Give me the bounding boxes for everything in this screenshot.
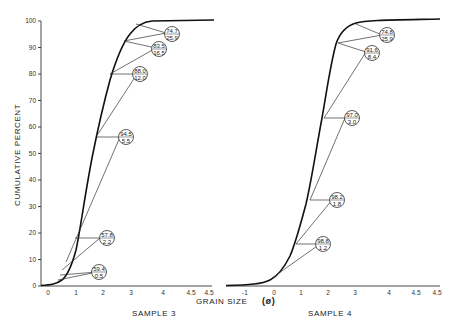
- svg-text:3.0: 3.0: [348, 119, 357, 125]
- y-tick-labels: 0 10 20 30 40 50 60 70 80 90 100: [25, 17, 36, 289]
- x-tick: 4: [387, 289, 391, 296]
- annotation-circle: 83.5 16.5: [152, 42, 167, 57]
- x-tick: 0: [46, 289, 50, 296]
- x-tick: 2: [326, 289, 330, 296]
- sample4-title: SAMPLE 4: [308, 309, 352, 318]
- x-axis-unit: (ø): [262, 296, 275, 306]
- x-tick: 4: [161, 289, 165, 296]
- svg-text:1.8: 1.8: [333, 201, 342, 207]
- svg-text:57.8: 57.8: [101, 232, 113, 238]
- sample3-annotation-circles: 59.4 0.5 57.8 2.2 94.5 5.5 88.0 12.0 83.…: [92, 27, 180, 280]
- y-axis-title: CUMULATIVE PERCENT: [13, 104, 22, 206]
- sample3-axes: [38, 21, 212, 286]
- y-tick: 20: [29, 229, 37, 236]
- svg-text:25.9: 25.9: [381, 36, 393, 42]
- x-tick: -1: [242, 289, 248, 296]
- y-tick: 50: [29, 150, 37, 157]
- svg-text:74.7: 74.7: [166, 28, 178, 34]
- svg-text:74.8: 74.8: [381, 29, 393, 35]
- y-tick: 0: [32, 282, 36, 289]
- annotation-circle: 88.0 12.0: [133, 67, 148, 82]
- svg-text:12.0: 12.0: [134, 75, 146, 81]
- x-tick: 4.5: [411, 289, 420, 296]
- sample3-cumulative-curve: [41, 20, 214, 286]
- annotation-circle: 59.4 0.5: [92, 265, 107, 280]
- svg-text:98.2: 98.2: [331, 194, 343, 200]
- x-tick: 4.5: [186, 289, 195, 296]
- x-tick: 2: [101, 289, 105, 296]
- svg-text:2.2: 2.2: [103, 239, 112, 245]
- svg-text:83.5: 83.5: [153, 43, 165, 49]
- annotation-circle: 98.2 1.8: [330, 193, 345, 208]
- sample4-x-ticks: -1 0 1 2 3 4 4.5 4.5: [242, 289, 442, 296]
- annotation-circle: 94.5 5.5: [119, 130, 134, 145]
- x-tick: 3: [353, 289, 357, 296]
- annotation-circle: 98.8 1.2: [316, 237, 331, 252]
- svg-text:97.0: 97.0: [346, 112, 358, 118]
- svg-text:91.6: 91.6: [366, 47, 378, 53]
- svg-text:8.4: 8.4: [368, 54, 377, 60]
- sample3-x-ticks: 0 1 2 3 4 4.5 4.5: [46, 289, 214, 296]
- x-tick: 1: [74, 289, 78, 296]
- svg-text:1.2: 1.2: [319, 245, 328, 251]
- y-tick: 80: [29, 70, 37, 77]
- svg-text:5.5: 5.5: [122, 138, 131, 144]
- svg-text:94.5: 94.5: [120, 131, 132, 137]
- x-tick: 4.5: [432, 289, 441, 296]
- annotation-circle: 57.8 2.2: [100, 231, 115, 246]
- y-tick: 100: [25, 17, 36, 24]
- x-tick: 4.5: [204, 289, 213, 296]
- grain-size-charts: 0 10 20 30 40 50 60 70 80 90 100 CUMULAT…: [0, 0, 459, 333]
- y-tick: 60: [29, 123, 37, 130]
- annotation-circle: 91.6 8.4: [365, 46, 380, 61]
- annotation-circle: 74.8 25.9: [380, 28, 395, 43]
- y-tick: 70: [29, 97, 37, 104]
- sample3-title: SAMPLE 3: [132, 309, 176, 318]
- svg-text:0.5: 0.5: [95, 273, 104, 279]
- annotation-circle: 97.0 3.0: [345, 111, 360, 126]
- svg-text:88.0: 88.0: [134, 68, 146, 74]
- y-tick: 10: [29, 256, 37, 263]
- x-tick: 3: [129, 289, 133, 296]
- svg-text:16.5: 16.5: [153, 50, 165, 56]
- x-tick: 1: [299, 289, 303, 296]
- sample4-annotation-circles: 98.8 1.2 98.2 1.8 97.0 3.0 91.6 8.4 74.8…: [316, 28, 395, 252]
- svg-text:59.4: 59.4: [93, 266, 105, 272]
- sample4-cumulative-curve: [226, 19, 440, 286]
- y-tick: 90: [29, 44, 37, 51]
- x-axis-title: GRAIN SIZE: [196, 297, 247, 306]
- x-tick: 0: [272, 289, 276, 296]
- svg-text:25.9: 25.9: [166, 35, 178, 41]
- y-tick: 30: [29, 203, 37, 210]
- y-tick: 40: [29, 176, 37, 183]
- svg-text:98.8: 98.8: [317, 238, 329, 244]
- annotation-circle: 74.7 25.9: [165, 27, 180, 42]
